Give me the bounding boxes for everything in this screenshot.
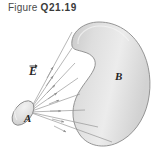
surface-a-label: A (24, 112, 31, 124)
field-vector-label: E (29, 64, 37, 79)
vector-arrow-icon (29, 63, 38, 68)
field-line-arrowheads (46, 67, 66, 132)
figure-illustration (0, 0, 159, 152)
surface-b-label: B (115, 70, 122, 82)
surface-b-shape (72, 22, 150, 146)
figure-container: Figure Q21.19 (0, 0, 159, 152)
